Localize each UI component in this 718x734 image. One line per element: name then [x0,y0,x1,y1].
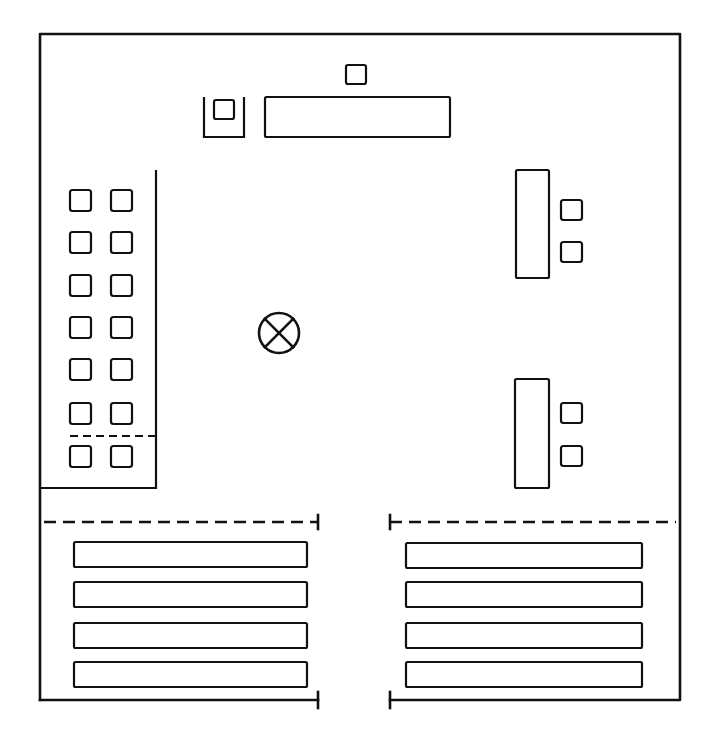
left-seat [111,232,132,253]
left-seat [111,446,132,467]
left-seat [111,317,132,338]
teacher-chair [346,65,366,84]
rear-bench-right [406,582,642,607]
right-chair [561,403,582,423]
right-chair [561,242,582,262]
floor-plan-canvas [0,0,718,734]
left-seat [70,317,91,338]
left-block-partition [40,170,156,488]
left-seat [111,275,132,296]
left-seat [111,359,132,380]
rear-bench-right [406,623,642,648]
left-seat [111,190,132,211]
right-chair [561,446,582,466]
left-seat [70,232,91,253]
left-seat [70,359,91,380]
left-seat [111,403,132,424]
right-chair [561,200,582,220]
rear-bench-left [74,582,307,607]
left-seat [70,403,91,424]
rear-bench-left [74,662,307,687]
rear-bench-left [74,542,307,567]
rear-bench-left [74,623,307,648]
teacher-desk [265,97,450,137]
left-seat [70,446,91,467]
right-table [516,170,549,278]
right-table [515,379,549,488]
left-seat [70,190,91,211]
rear-bench-right [406,543,642,568]
side-station-chair [214,100,234,119]
left-seat [70,275,91,296]
rear-bench-right [406,662,642,687]
